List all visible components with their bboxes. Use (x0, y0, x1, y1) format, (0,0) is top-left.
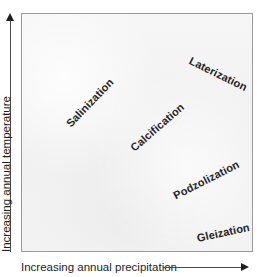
arrow-right-icon (241, 263, 249, 271)
plot-area: Salinization Calcification Laterization … (21, 13, 253, 252)
process-label-laterization: Laterization (187, 55, 249, 93)
x-axis-line (163, 267, 242, 268)
process-label-gleization: Gleization (196, 221, 251, 244)
y-axis: Increasing annual temperature (0, 13, 21, 252)
process-label-podzolization: Podzolization (171, 158, 241, 201)
x-axis-label: Increasing annual precipitation (21, 260, 177, 274)
process-label-salinization: Salinization (64, 76, 116, 129)
soil-formation-diagram: Salinization Calcification Laterization … (0, 0, 270, 277)
process-label-calcification: Calcification (128, 101, 186, 154)
x-axis: Increasing annual precipitation (0, 258, 270, 277)
y-axis-label: Increasing annual temperature (0, 96, 12, 252)
